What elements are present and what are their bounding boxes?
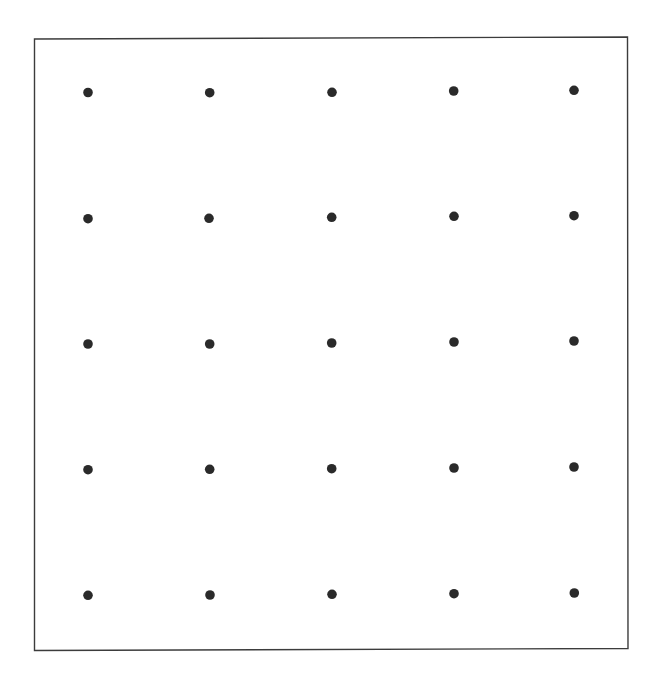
grid-dot-r4-c3 bbox=[327, 464, 337, 474]
grid-dot-r3-c3 bbox=[327, 338, 337, 348]
grid-dot-r3-c2 bbox=[205, 339, 215, 349]
grid-dot-r1-c3 bbox=[327, 88, 337, 98]
grid-dot-r5-c1 bbox=[83, 591, 93, 601]
grid-dot-r5-c4 bbox=[449, 589, 459, 599]
grid-dot-r3-c1 bbox=[83, 339, 93, 349]
grid-dot-r2-c5 bbox=[569, 211, 579, 221]
grid-dot-r3-c5 bbox=[569, 336, 579, 346]
grid-dot-r2-c3 bbox=[327, 213, 337, 223]
grid-dot-r2-c2 bbox=[204, 214, 214, 224]
grid-dot-r1-c4 bbox=[449, 86, 459, 96]
grid-dot-r2-c1 bbox=[83, 214, 93, 224]
grid-dot-r3-c4 bbox=[449, 337, 459, 347]
grid-dot-r4-c2 bbox=[205, 465, 215, 475]
grid-dot-r1-c1 bbox=[83, 88, 93, 98]
grid-dot-r4-c4 bbox=[449, 463, 459, 473]
grid-dot-r5-c5 bbox=[570, 588, 580, 598]
grid-dot-r5-c2 bbox=[205, 590, 215, 600]
grid-dot-r5-c3 bbox=[327, 590, 337, 600]
grid-dot-r1-c2 bbox=[205, 88, 215, 98]
grid-dot-r2-c4 bbox=[449, 212, 459, 222]
grid-dot-r4-c1 bbox=[83, 465, 93, 475]
grid-dot-r4-c5 bbox=[569, 462, 579, 472]
dot-grid-diagram bbox=[0, 0, 659, 687]
grid-dot-r1-c5 bbox=[569, 86, 579, 96]
